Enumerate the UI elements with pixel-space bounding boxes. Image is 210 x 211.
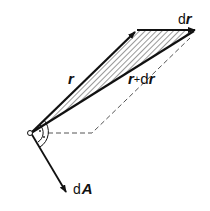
label-r: r (68, 70, 75, 87)
vector-r (31, 32, 135, 133)
label-r-plus-dr: r+dr (128, 70, 156, 87)
right-angle-dot-1 (39, 130, 41, 132)
right-angle-dot-2 (43, 136, 45, 138)
label-dA: dA (73, 180, 93, 197)
vector-dA (31, 133, 66, 192)
label-dr: dr (178, 10, 193, 27)
origin-point-icon (28, 131, 33, 136)
area-vector-diagram: r r+dr dr dA (0, 0, 210, 211)
vector-r-plus-dr (31, 31, 194, 133)
